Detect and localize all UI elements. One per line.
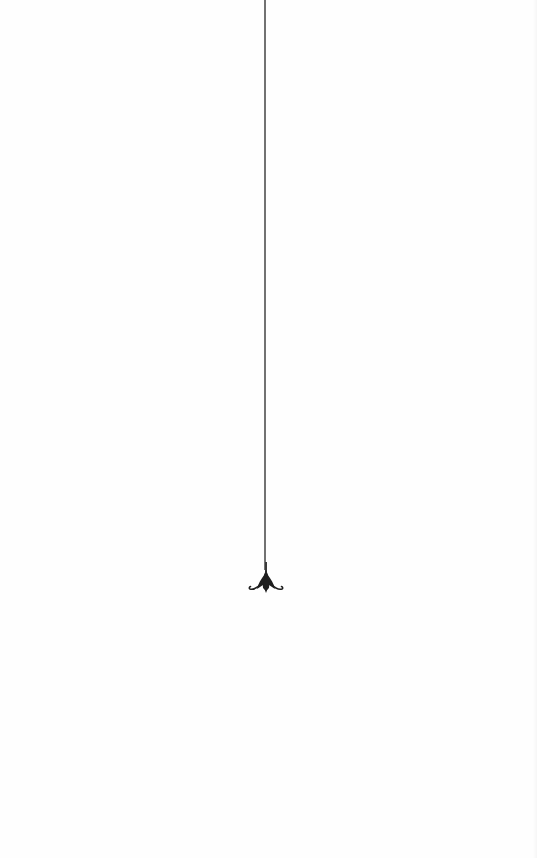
fleuron-drop-icon: [246, 562, 286, 594]
ornamental-vertical-rule: [264, 0, 266, 570]
document-page: [0, 0, 537, 858]
page-edge-shadow: [533, 0, 537, 858]
